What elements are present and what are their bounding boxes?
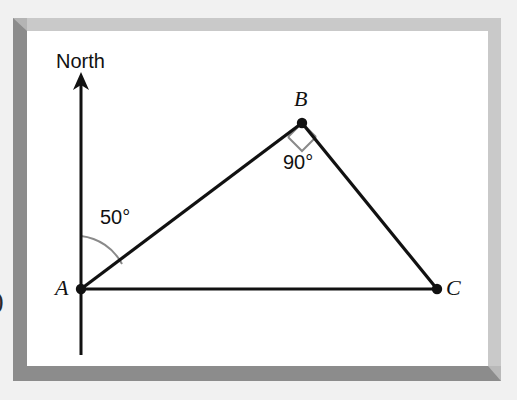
- vertex-point-a: [76, 284, 86, 294]
- north-label: North: [56, 51, 105, 71]
- vertex-label-c: C: [446, 277, 461, 299]
- vertex-label-a: A: [55, 277, 68, 299]
- clipped-edge-glyph: ): [0, 286, 4, 318]
- right-angle-marker-at-b: [288, 137, 316, 151]
- vertex-point-b: [297, 118, 307, 128]
- angle-label-90: 90°: [283, 152, 313, 172]
- segment-bc: [302, 123, 437, 289]
- geometry-figure: North A B C 50° 90° ): [0, 0, 517, 400]
- angle-label-50: 50°: [100, 207, 130, 227]
- vertex-label-b: B: [294, 88, 307, 110]
- vertex-point-c: [432, 284, 442, 294]
- angle-arc-at-a: [81, 236, 122, 264]
